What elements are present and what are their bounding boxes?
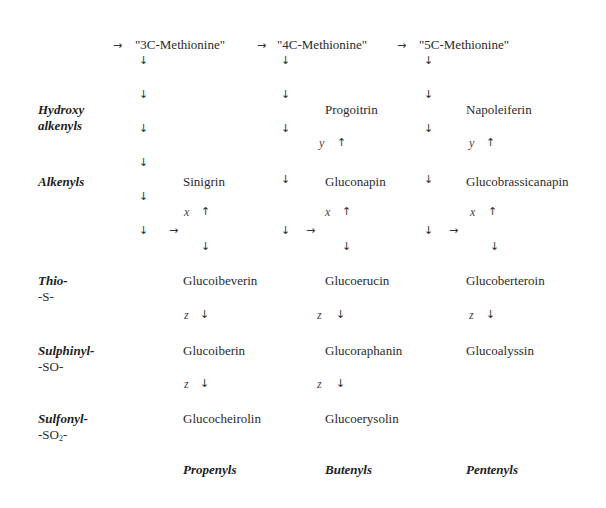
arrow-down-icon: ↓ (424, 225, 433, 237)
arrow-down-icon: ↓ (139, 191, 148, 203)
arrow-down-icon: ↓ (281, 174, 290, 186)
arrow-up-icon: ↑ (488, 206, 497, 218)
arrow-down-icon: ↓ (490, 241, 499, 253)
row-label-alkenyls-sub: alkenyls (38, 118, 82, 133)
column-label-butenyls: Butenyls (325, 462, 372, 477)
arrow-down-icon: ↓ (336, 309, 345, 321)
enzyme-label-z: z (184, 377, 189, 391)
arrow-down-icon: ↓ (201, 241, 210, 253)
enzyme-label-x: x (470, 205, 475, 219)
arrow-down-icon: ↓ (336, 378, 345, 390)
compound-glucobrassicanapin: Glucobrassicanapin (466, 174, 569, 189)
arrow-right-icon: → (306, 225, 315, 237)
row-label-sulfonyl: Sulfonyl- (38, 411, 88, 426)
arrow-down-icon: ↓ (139, 55, 148, 67)
precursor-3c-methionine: "3C-Methionine" (135, 37, 225, 52)
arrow-up-icon: ↑ (486, 137, 495, 149)
compound-progoitrin: Progoitrin (325, 102, 378, 117)
arrow-right-icon: → (169, 225, 178, 237)
enzyme-label-y: y (319, 136, 324, 150)
precursor-4c-methionine: "4C-Methionine" (277, 37, 367, 52)
column-label-propenyls: Propenyls (183, 462, 236, 477)
arrow-right-icon: → (449, 225, 458, 237)
row-label-thio-formula: -S- (38, 289, 54, 304)
compound-napoleiferin: Napoleiferin (466, 102, 532, 117)
enzyme-label-z: z (184, 308, 189, 322)
arrow-right-icon: → (257, 40, 266, 52)
arrow-down-icon: ↓ (424, 174, 433, 186)
enzyme-label-z: z (469, 308, 474, 322)
arrow-down-icon: ↓ (424, 123, 433, 135)
row-label-thio: Thio- (38, 273, 68, 288)
arrow-down-icon: ↓ (139, 157, 148, 169)
enzyme-label-x: x (184, 205, 189, 219)
arrow-down-icon: ↓ (342, 241, 351, 253)
arrow-down-icon: ↓ (139, 123, 148, 135)
arrow-down-icon: ↓ (486, 309, 495, 321)
enzyme-label-z: z (317, 377, 322, 391)
arrow-down-icon: ↓ (200, 309, 209, 321)
enzyme-label-y: y (469, 136, 474, 150)
arrow-down-icon: ↓ (424, 55, 433, 67)
row-label-sulphinyl: Sulphinyl- (38, 343, 94, 358)
enzyme-label-x: x (325, 205, 330, 219)
arrow-right-icon: → (397, 40, 406, 52)
arrow-down-icon: ↓ (200, 378, 209, 390)
compound-glucoerucin: Glucoerucin (325, 273, 389, 288)
compound-glucoalyssin: Glucoalyssin (466, 343, 534, 358)
arrow-down-icon: ↓ (139, 225, 148, 237)
arrow-up-icon: ↑ (201, 206, 210, 218)
arrow-down-icon: ↓ (424, 89, 433, 101)
row-label-sulphinyl-formula: -SO- (38, 359, 63, 374)
compound-sinigrin: Sinigrin (183, 174, 225, 189)
arrow-right-icon: → (113, 40, 122, 52)
row-label-alkenyls: Alkenyls (38, 174, 84, 189)
enzyme-label-z: z (317, 308, 322, 322)
row-label-sulfonyl-formula: -SO2- (38, 427, 67, 446)
row-label-hydroxy: Hydroxy (38, 102, 84, 117)
arrow-up-icon: ↑ (342, 206, 351, 218)
arrow-down-icon: ↓ (281, 55, 290, 67)
compound-glucoiberin: Glucoiberin (183, 343, 245, 358)
arrow-down-icon: ↓ (281, 225, 290, 237)
compound-gluconapin: Gluconapin (325, 174, 386, 189)
compound-glucoraphanin: Glucoraphanin (325, 343, 402, 358)
arrow-down-icon: ↓ (139, 89, 148, 101)
arrow-up-icon: ↑ (337, 137, 346, 149)
arrow-down-icon: ↓ (281, 89, 290, 101)
precursor-5c-methionine: "5C-Methionine" (419, 37, 509, 52)
compound-glucoibeverin: Glucoibeverin (183, 273, 257, 288)
arrow-down-icon: ↓ (281, 123, 290, 135)
compound-glucocheirolin: Glucocheirolin (183, 411, 261, 426)
column-label-pentenyls: Pentenyls (466, 462, 518, 477)
compound-glucoerysolin: Glucoerysolin (325, 411, 399, 426)
compound-glucoberteroin: Glucoberteroin (466, 273, 545, 288)
